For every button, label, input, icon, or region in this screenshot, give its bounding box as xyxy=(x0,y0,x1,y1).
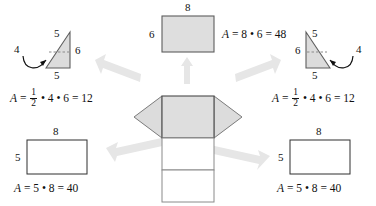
right-formula-dot2: • xyxy=(318,92,322,104)
top-rectangle-label-left: 6 xyxy=(149,29,155,40)
left-triangle-label-top: 5 xyxy=(54,28,60,39)
bl-formula-dot1: • xyxy=(42,182,46,194)
top-formula-factor2: 6 xyxy=(257,28,263,40)
right-formula-frac-num: 1 xyxy=(292,88,299,98)
top-formula-factor1: 8 xyxy=(241,28,247,40)
right-triangle-formula: A = 12 • 4 • 6 = 12 xyxy=(272,88,355,108)
br-formula-factor1: 5 xyxy=(296,182,302,194)
br-formula-factor2: 8 xyxy=(312,182,318,194)
right-formula-frac-den: 2 xyxy=(292,98,299,109)
left-formula-factor2: 6 xyxy=(63,92,69,104)
right-formula-factor1: 4 xyxy=(310,92,316,104)
left-formula-frac-num: 1 xyxy=(30,88,37,98)
bl-formula-result: 40 xyxy=(67,182,79,194)
right-triangle-label-height: 4 xyxy=(356,44,362,55)
left-formula-fraction: 12 xyxy=(30,88,37,108)
left-formula-result: 12 xyxy=(81,92,93,104)
right-formula-equals2: = xyxy=(334,92,341,104)
left-triangle-formula: A = 12 • 4 • 6 = 12 xyxy=(10,88,93,108)
br-formula-equals2: = xyxy=(320,182,327,194)
top-rectangle-label-top: 8 xyxy=(185,2,191,13)
diagram-text-layer: 5 5 6 4 A = 12 • 4 • 6 = 12 8 6 A = 8 • … xyxy=(0,0,376,206)
bl-formula-factor2: 8 xyxy=(49,182,55,194)
left-formula-lead: A xyxy=(10,92,17,104)
left-formula-dot1: • xyxy=(41,92,45,104)
right-formula-fraction: 12 xyxy=(292,88,299,108)
top-formula-lead: A xyxy=(222,28,229,40)
right-formula-result: 12 xyxy=(343,92,355,104)
br-formula-result: 40 xyxy=(330,182,342,194)
br-formula-equals: = xyxy=(287,182,294,194)
bl-formula-lead: A xyxy=(14,182,21,194)
bottom-left-rectangle-label-left: 5 xyxy=(15,152,21,163)
top-formula-result: 48 xyxy=(275,28,287,40)
left-triangle-label-right: 6 xyxy=(75,45,81,56)
top-formula-equals2: = xyxy=(265,28,272,40)
right-formula-equals: = xyxy=(282,92,289,104)
right-triangle-label-bottom: 5 xyxy=(312,70,318,81)
left-formula-equals2: = xyxy=(72,92,79,104)
bl-formula-factor1: 5 xyxy=(33,182,39,194)
diagram-canvas: 5 5 6 4 A = 12 • 4 • 6 = 12 8 6 A = 8 • … xyxy=(0,0,376,206)
top-formula-dot1: • xyxy=(250,28,254,40)
bl-formula-equals: = xyxy=(24,182,31,194)
left-formula-dot2: • xyxy=(56,92,60,104)
bottom-left-rectangle-formula: A = 5 • 8 = 40 xyxy=(14,182,78,194)
right-triangle-label-top: 5 xyxy=(312,28,318,39)
bottom-right-rectangle-label-left: 5 xyxy=(278,152,284,163)
br-formula-dot1: • xyxy=(305,182,309,194)
left-formula-factor1: 4 xyxy=(48,92,54,104)
left-formula-equals: = xyxy=(20,92,27,104)
right-formula-dot1: • xyxy=(303,92,307,104)
right-triangle-label-left: 6 xyxy=(295,45,301,56)
left-triangle-label-bottom: 5 xyxy=(54,70,60,81)
top-rectangle-formula: A = 8 • 6 = 48 xyxy=(222,28,286,40)
bottom-left-rectangle-label-top: 8 xyxy=(53,126,59,137)
bottom-right-rectangle-label-top: 8 xyxy=(316,126,322,137)
left-triangle-label-height: 4 xyxy=(14,44,20,55)
bottom-right-rectangle-formula: A = 5 • 8 = 40 xyxy=(277,182,341,194)
bl-formula-equals2: = xyxy=(57,182,64,194)
right-formula-factor2: 6 xyxy=(325,92,331,104)
br-formula-lead: A xyxy=(277,182,284,194)
right-formula-lead: A xyxy=(272,92,279,104)
left-formula-frac-den: 2 xyxy=(30,98,37,109)
top-formula-equals: = xyxy=(232,28,239,40)
